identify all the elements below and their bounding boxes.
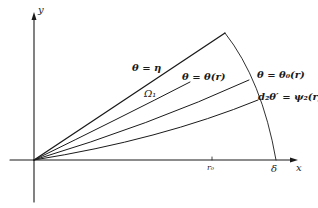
label-theta-r: θ = θ(r) [182,72,225,82]
region-omega1-label: Ω₁ [144,89,156,99]
curve-psi2 [34,100,258,160]
label-theta0-r: θ = θ₀(r) [257,70,305,80]
label-eta: θ = η [132,63,161,73]
x-axis-label: x [296,163,302,173]
curve-theta-r [34,82,190,160]
y-axis-label: y [38,5,44,15]
y-axis-arrow-icon [32,12,37,20]
diagram-canvas [0,0,318,208]
curve-theta0-r [34,80,249,160]
r0-tick-label: r₀ [207,164,214,172]
label-psi2: d₂θ′ = ψ₂(r) [258,92,318,102]
delta-tick-label: δ [271,164,277,174]
